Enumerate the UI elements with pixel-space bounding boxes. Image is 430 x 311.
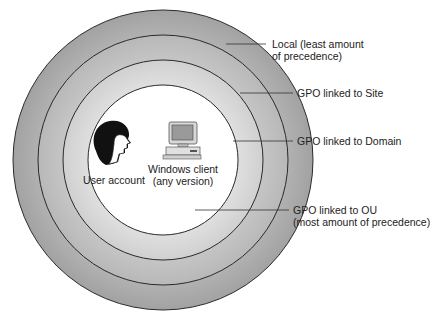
label-site-line1: GPO linked to Site <box>297 87 383 99</box>
label-site: GPO linked to Site <box>297 87 383 99</box>
label-ou-line2: (most amount of precedence) <box>293 216 430 228</box>
user-account-text: User account <box>83 174 145 186</box>
label-ou: GPO linked to OU (most amount of precede… <box>293 204 430 228</box>
desktop-computer-icon <box>163 122 201 159</box>
windows-client-line1: Windows client <box>148 163 218 175</box>
label-domain: GPO linked to Domain <box>297 135 401 147</box>
user-account-label: User account <box>83 174 145 186</box>
label-ou-line1: GPO linked to OU <box>293 204 430 216</box>
label-local: Local (least amount of precedence) <box>272 38 364 62</box>
label-local-line1: Local (least amount <box>272 38 364 50</box>
label-domain-line1: GPO linked to Domain <box>297 135 401 147</box>
windows-client-label: Windows client (any version) <box>148 163 218 187</box>
windows-client-line2: (any version) <box>148 175 218 187</box>
label-local-line2: of precedence) <box>272 50 364 62</box>
